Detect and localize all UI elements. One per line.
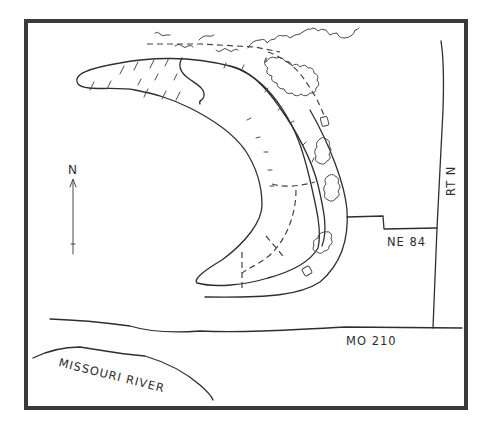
tree-cluster-3: [324, 175, 340, 202]
road-mo210: [50, 319, 462, 332]
north-label: N: [68, 163, 77, 177]
road-label-rt-n: RT N: [444, 166, 458, 196]
structure-2: [302, 266, 313, 277]
marsh-boundary: [180, 58, 204, 104]
road-rt-n: [433, 41, 444, 328]
lake-outer-shore: [77, 58, 320, 285]
structure-1: [320, 116, 329, 127]
park-road: [205, 110, 347, 297]
road-ne84: [347, 216, 437, 229]
tree-cluster-2: [315, 138, 331, 165]
tree-cluster-1: [264, 57, 318, 96]
marsh-hatching: [90, 58, 180, 100]
trail-east: [268, 52, 325, 118]
map-canvas: N NE 84 MO 210 RT N MISSOURI RIVER: [0, 0, 495, 434]
trails-inner: [242, 182, 315, 292]
road-label-ne84: NE 84: [387, 235, 426, 249]
road-label-mo210: MO 210: [346, 334, 397, 348]
north-arrow-icon: [70, 179, 76, 254]
map-frame: [26, 21, 466, 408]
river-label: MISSOURI RIVER: [57, 355, 166, 395]
bank-hatching: [224, 63, 314, 186]
trail-top: [147, 44, 280, 52]
